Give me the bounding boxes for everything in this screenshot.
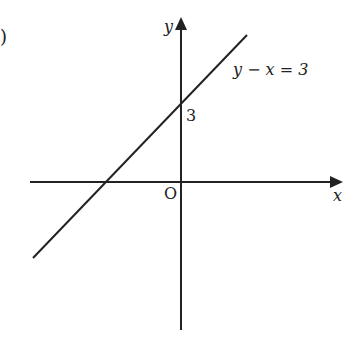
part-label: ) [0,28,7,46]
graph-svg [0,0,360,347]
x-axis-label: x [333,188,342,204]
y-axis-label: y [164,19,173,35]
line-equation-label: y − x = 3 [233,62,308,78]
origin-label: O [164,186,177,202]
line-y-minus-x-equals-3 [33,35,247,258]
graph-figure: ) y y − x = 3 3 O x [0,0,360,347]
y-axis-arrow-icon [175,17,187,30]
intercept-label: 3 [186,108,196,124]
